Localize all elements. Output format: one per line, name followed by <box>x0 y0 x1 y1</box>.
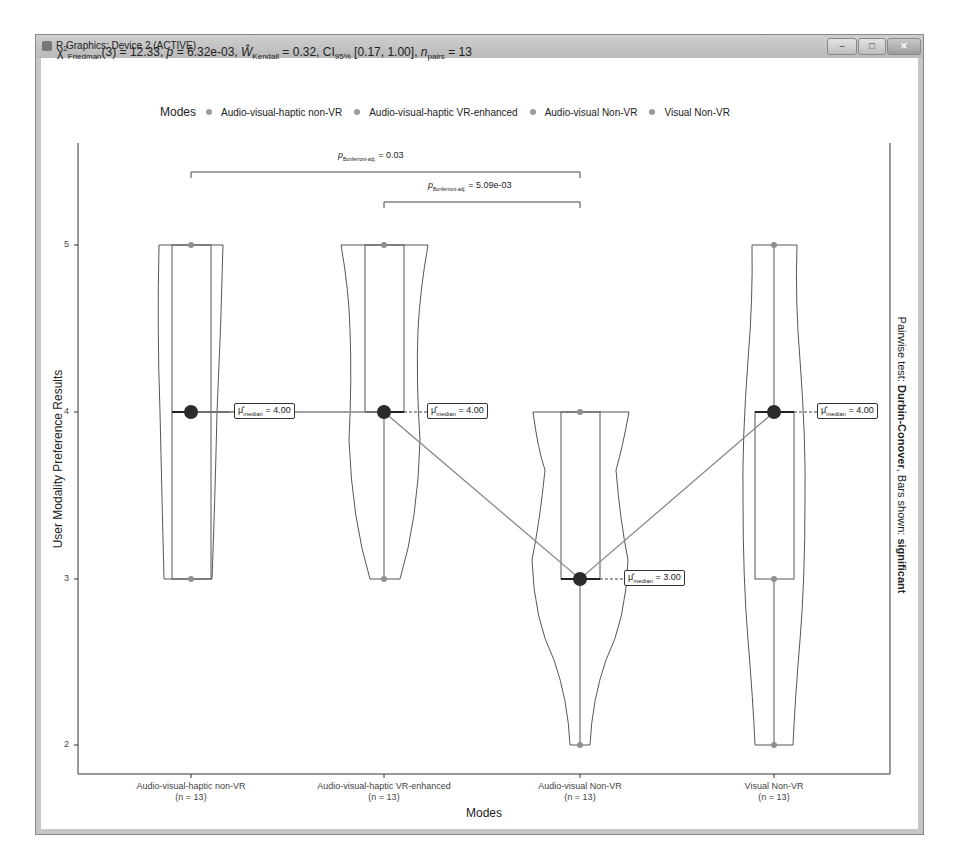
median-point <box>767 405 781 419</box>
mu-symbol: μ̂ <box>821 405 826 415</box>
x-axis-title: Modes <box>466 806 502 820</box>
x-tick-label: Audio-visual-haptic non-VR (n = 13) <box>91 781 291 803</box>
x-tick-label: Visual Non-VR (n = 13) <box>674 781 874 803</box>
y-tick-label: 2 <box>64 739 69 749</box>
data-point <box>188 576 194 582</box>
box <box>755 412 794 579</box>
median-value: = 4.00 <box>263 405 291 415</box>
x-tick-label: Audio-visual-haptic VR-enhanced (n = 13) <box>284 781 484 803</box>
x-tick-name: Audio-visual-haptic VR-enhanced <box>284 781 484 792</box>
pairwise-label-1: pBonferroni-adj. = 0.03 <box>338 150 404 162</box>
p-sub: Bonferroni-adj. <box>433 186 466 192</box>
y-ticks <box>74 245 78 745</box>
significance-bar-1-3 <box>191 172 580 178</box>
violin-plot <box>0 0 956 868</box>
x-tick-n: (n = 13) <box>480 792 680 803</box>
caption-bars: significant <box>896 538 908 593</box>
median-value: = 3.00 <box>653 572 681 582</box>
mu-symbol: μ̂ <box>628 572 633 582</box>
median-connector-line <box>191 412 774 579</box>
median-point <box>377 405 391 419</box>
pairwise-label-2: pBonferroni-adj. = 5.09e-03 <box>428 180 512 192</box>
median-point <box>573 572 587 586</box>
pairwise-caption: Pairwise test: Durbin-Conover, Bars show… <box>896 317 908 594</box>
x-tick-name: Audio-visual Non-VR <box>480 781 680 792</box>
x-tick-n: (n = 13) <box>91 792 291 803</box>
p-sub: Bonferroni-adj. <box>343 156 376 162</box>
data-point <box>771 742 777 748</box>
mu-symbol: μ̂ <box>431 405 436 415</box>
caption-test: Durbin-Conover <box>896 385 908 469</box>
x-tick-name: Audio-visual-haptic non-VR <box>91 781 291 792</box>
mu-sub: median <box>243 411 263 417</box>
box <box>561 412 600 579</box>
data-point <box>771 576 777 582</box>
y-axis-title: User Modality Preference Results <box>51 370 65 549</box>
mu-symbol: μ̂ <box>238 405 243 415</box>
x-tick-label: Audio-visual Non-VR (n = 13) <box>480 781 680 803</box>
mu-sub: median <box>436 411 456 417</box>
data-point <box>381 576 387 582</box>
violin-group-4 <box>743 242 817 748</box>
mu-sub: median <box>826 411 846 417</box>
p-value: = 0.03 <box>376 150 404 160</box>
median-value: = 4.00 <box>846 405 874 415</box>
mu-sub: median <box>633 578 653 584</box>
p-value: = 5.09e-03 <box>466 180 512 190</box>
data-point <box>577 409 583 415</box>
x-ticks <box>191 774 774 778</box>
significance-bar-2-3 <box>384 202 580 208</box>
data-point <box>771 242 777 248</box>
median-label-3: μ̂median = 3.00 <box>624 570 685 586</box>
median-value: = 4.00 <box>456 405 484 415</box>
median-point <box>184 405 198 419</box>
caption-middle: , Bars shown: <box>896 469 908 539</box>
y-tick-label: 5 <box>64 239 69 249</box>
x-tick-n: (n = 13) <box>284 792 484 803</box>
median-label-1: μ̂median = 4.00 <box>234 403 295 419</box>
data-point <box>577 742 583 748</box>
data-point <box>381 242 387 248</box>
y-tick-label: 3 <box>64 573 69 583</box>
median-label-2: μ̂median = 4.00 <box>427 403 488 419</box>
box <box>365 245 404 412</box>
caption-prefix: Pairwise test: <box>896 317 908 385</box>
median-label-4: μ̂median = 4.00 <box>817 403 878 419</box>
data-point <box>188 242 194 248</box>
x-tick-name: Visual Non-VR <box>674 781 874 792</box>
x-tick-n: (n = 13) <box>674 792 874 803</box>
